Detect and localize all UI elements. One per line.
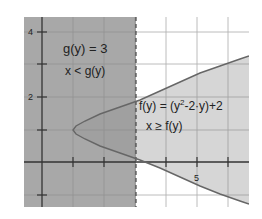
y-tick-label-2: 2: [28, 92, 33, 102]
x-tick-label-5: 5: [194, 173, 199, 183]
g-expression-label: g(y) = 3: [63, 41, 107, 56]
region-plot: 4 2 5 g(y) = 3 x < g(y) f(y) = (y2-2·y)+…: [0, 0, 262, 219]
y-tick-label-4: 4: [28, 27, 33, 37]
f-inequality-label: x ≥ f(y): [146, 119, 183, 133]
g-inequality-label: x < g(y): [65, 64, 105, 78]
